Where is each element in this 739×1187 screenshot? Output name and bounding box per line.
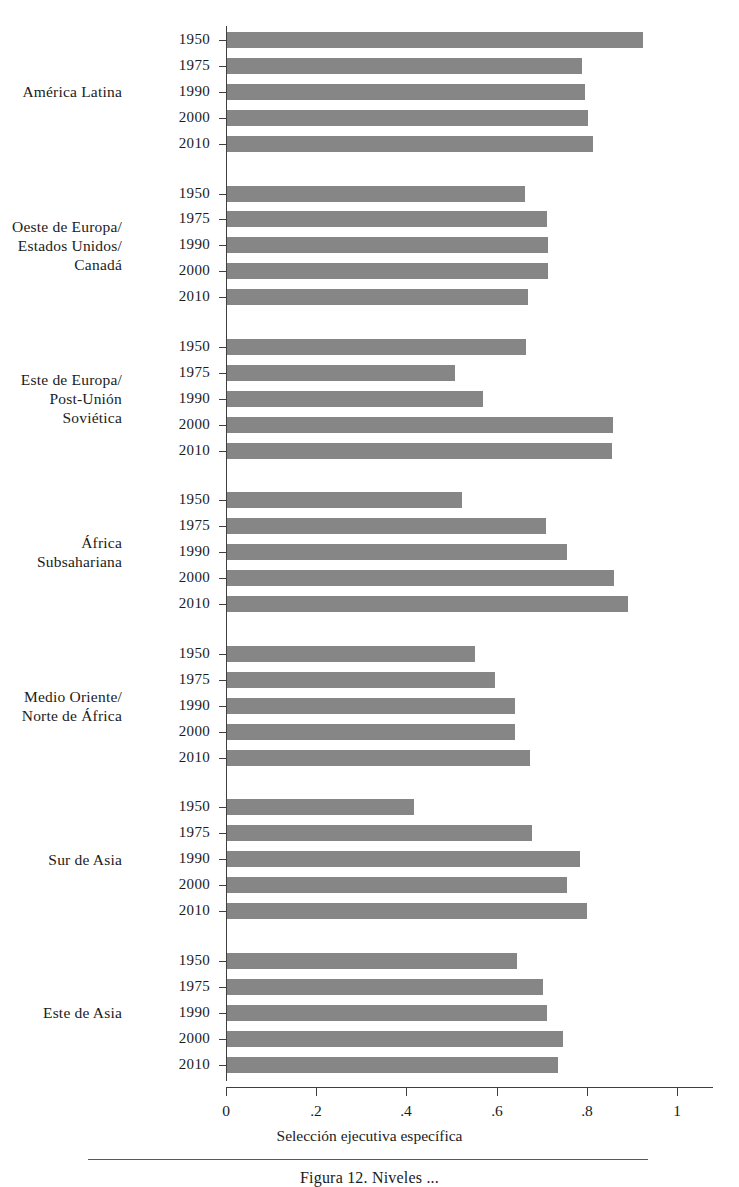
region-label: África Subsahariana bbox=[0, 533, 122, 571]
year-tick-label: 1950 bbox=[130, 339, 210, 354]
year-tick-label: 2010 bbox=[130, 750, 210, 765]
bar bbox=[226, 417, 613, 433]
y-axis-tick bbox=[219, 885, 226, 886]
y-axis-tick bbox=[219, 758, 226, 759]
bar bbox=[226, 825, 532, 841]
x-axis-line bbox=[226, 1087, 713, 1088]
x-axis-tick-label: .4 bbox=[386, 1103, 426, 1119]
year-tick-label: 1990 bbox=[130, 851, 210, 866]
y-axis-tick bbox=[219, 578, 226, 579]
bar bbox=[226, 365, 455, 381]
figure-caption: Figura 12. Niveles ... bbox=[0, 1169, 739, 1187]
caption-separator bbox=[88, 1159, 648, 1160]
bar bbox=[226, 186, 525, 202]
y-axis-tick bbox=[219, 399, 226, 400]
bar bbox=[226, 84, 585, 100]
region-label: Medio Oriente/ Norte de África bbox=[0, 687, 122, 725]
year-tick-label: 1975 bbox=[130, 211, 210, 226]
year-tick-label: 1990 bbox=[130, 391, 210, 406]
y-axis-tick bbox=[219, 500, 226, 501]
year-tick-label: 2010 bbox=[130, 289, 210, 304]
x-axis-tick bbox=[316, 1088, 317, 1096]
year-tick-label: 1950 bbox=[130, 799, 210, 814]
y-axis-tick bbox=[219, 347, 226, 348]
y-axis-tick bbox=[219, 706, 226, 707]
y-axis-tick bbox=[219, 245, 226, 246]
bar bbox=[226, 32, 643, 48]
year-tick-label: 1950 bbox=[130, 646, 210, 661]
year-tick-label: 1975 bbox=[130, 518, 210, 533]
x-axis-tick bbox=[497, 1088, 498, 1096]
x-axis-tick-label: .8 bbox=[567, 1103, 607, 1119]
y-axis-tick bbox=[219, 373, 226, 374]
bar bbox=[226, 339, 526, 355]
region-label: Este de Asia bbox=[0, 1003, 122, 1022]
y-axis-tick bbox=[219, 425, 226, 426]
y-axis-tick bbox=[219, 194, 226, 195]
bar bbox=[226, 750, 530, 766]
bar bbox=[226, 596, 628, 612]
y-axis-tick bbox=[219, 732, 226, 733]
bar bbox=[226, 544, 567, 560]
x-axis-tick bbox=[677, 1088, 678, 1096]
bar bbox=[226, 518, 546, 534]
y-axis-tick bbox=[219, 1013, 226, 1014]
year-tick-label: 2010 bbox=[130, 596, 210, 611]
x-axis-title: Selección ejecutiva específica bbox=[0, 1127, 739, 1145]
year-tick-label: 1975 bbox=[130, 365, 210, 380]
bar bbox=[226, 877, 567, 893]
bar bbox=[226, 263, 548, 279]
year-tick-label: 2010 bbox=[130, 1057, 210, 1072]
year-tick-label: 2010 bbox=[130, 903, 210, 918]
bar bbox=[226, 903, 587, 919]
y-axis-tick bbox=[219, 144, 226, 145]
y-axis-tick bbox=[219, 833, 226, 834]
bar bbox=[226, 1005, 547, 1021]
year-tick-label: 2000 bbox=[130, 263, 210, 278]
x-axis-tick-label: .2 bbox=[296, 1103, 336, 1119]
bar bbox=[226, 58, 582, 74]
year-tick-label: 2010 bbox=[130, 136, 210, 151]
x-axis-tick-label: 0 bbox=[206, 1103, 246, 1119]
y-axis-tick bbox=[219, 118, 226, 119]
year-tick-label: 2000 bbox=[130, 417, 210, 432]
region-label: Este de Europa/ Post-Unión Soviética bbox=[0, 370, 122, 427]
x-axis-tick-label: 1 bbox=[657, 1103, 697, 1119]
bar bbox=[226, 953, 517, 969]
bar bbox=[226, 211, 547, 227]
y-axis-tick bbox=[219, 1039, 226, 1040]
year-tick-label: 2000 bbox=[130, 1031, 210, 1046]
bar bbox=[226, 698, 515, 714]
region-label: Sur de Asia bbox=[0, 850, 122, 869]
y-axis-tick bbox=[219, 859, 226, 860]
bar bbox=[226, 1031, 563, 1047]
year-tick-label: 1975 bbox=[130, 672, 210, 687]
year-tick-label: 1990 bbox=[130, 698, 210, 713]
bar bbox=[226, 136, 593, 152]
bar bbox=[226, 979, 543, 995]
region-label: América Latina bbox=[0, 82, 122, 101]
y-axis-tick bbox=[219, 526, 226, 527]
x-axis-tick bbox=[587, 1088, 588, 1096]
bar bbox=[226, 570, 614, 586]
bar bbox=[226, 237, 548, 253]
y-axis-tick bbox=[219, 66, 226, 67]
y-axis-tick bbox=[219, 297, 226, 298]
year-tick-label: 1990 bbox=[130, 84, 210, 99]
year-tick-label: 1950 bbox=[130, 953, 210, 968]
year-tick-label: 2000 bbox=[130, 570, 210, 585]
y-axis-tick bbox=[219, 40, 226, 41]
y-axis-tick bbox=[219, 911, 226, 912]
year-tick-label: 1950 bbox=[130, 186, 210, 201]
y-axis-tick bbox=[219, 219, 226, 220]
x-axis-tick bbox=[226, 1088, 227, 1096]
x-axis-tick-label: .6 bbox=[477, 1103, 517, 1119]
bar bbox=[226, 1057, 558, 1073]
year-tick-label: 2000 bbox=[130, 110, 210, 125]
year-tick-label: 1975 bbox=[130, 979, 210, 994]
year-tick-label: 2010 bbox=[130, 443, 210, 458]
bar bbox=[226, 443, 612, 459]
year-tick-label: 1950 bbox=[130, 32, 210, 47]
